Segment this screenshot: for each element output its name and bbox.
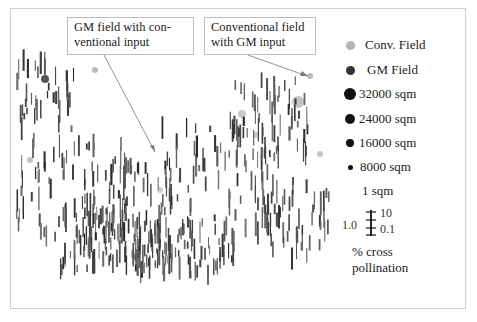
legend-item-gm-field: GM Field: [342, 61, 418, 79]
callout-text-line: GM field with con-: [74, 20, 187, 35]
callout-arrow-gm: [104, 55, 155, 152]
size-32000-dot-icon: [344, 88, 356, 100]
gm-field-dot-icon: [346, 66, 355, 75]
legend-item-24000: 24000 sqm: [342, 110, 416, 128]
callout-gm-field-conventional-input: GM field with con- ventional input: [67, 17, 194, 55]
legend-label: 16000 sqm: [359, 135, 416, 151]
legend-label: GM Field: [367, 62, 418, 78]
legend-label: 1 sqm: [362, 183, 393, 199]
legend-label: 8000 sqm: [360, 159, 411, 175]
legend-item-1sqm: 1 sqm: [362, 182, 393, 200]
scale-bar-icon: [364, 208, 378, 238]
legend-caption: % cross pollination: [352, 244, 408, 276]
field-marker: [92, 67, 98, 73]
field-marker: [41, 75, 49, 83]
callout-text-line: Conventional field: [211, 20, 309, 35]
legend-item-16000: 16000 sqm: [342, 134, 416, 152]
scale-label-0-1: 0.1: [380, 222, 395, 237]
callout-text-line: with GM input: [211, 35, 309, 50]
legend-label: 24000 sqm: [359, 111, 416, 127]
field-marker: [292, 96, 304, 108]
legend-item-8000: 8000 sqm: [342, 158, 411, 176]
size-8000-dot-icon: [348, 165, 353, 170]
callout-text-line: ventional input: [74, 35, 187, 50]
cross-pollination-scale: 1.0 10 0.1: [342, 206, 462, 246]
scale-label-10: 10: [380, 206, 392, 221]
scale-label-1-0: 1.0: [342, 218, 357, 233]
size-16000-dot-icon: [346, 139, 354, 147]
legend-item-32000: 32000 sqm: [342, 85, 416, 103]
caption-line: % cross: [352, 244, 408, 260]
callout-arrowhead-conv: [300, 71, 308, 76]
caption-line: pollination: [352, 260, 408, 276]
legend-label: 32000 sqm: [359, 86, 416, 102]
legend-item-conv-field: Conv. Field: [342, 36, 426, 54]
callout-arrow-conv: [248, 55, 307, 76]
conv-field-dot-icon: [346, 41, 355, 50]
size-24000-dot-icon: [345, 114, 355, 124]
field-marker: [317, 151, 323, 157]
callout-conventional-field-gm-input: Conventional field with GM input: [204, 17, 316, 55]
legend-label: Conv. Field: [365, 37, 426, 53]
callout-arrowhead-gm: [150, 145, 155, 152]
